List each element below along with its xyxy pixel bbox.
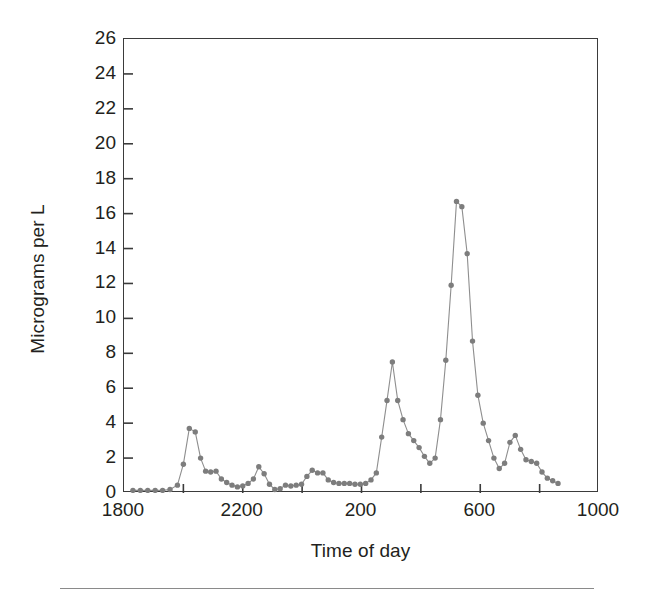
data-point-marker (443, 358, 448, 363)
y-tick-label: 12 (70, 272, 116, 291)
data-point-marker (486, 438, 491, 443)
data-point-marker (203, 468, 208, 473)
data-point-marker (293, 482, 298, 487)
data-point-marker (331, 480, 336, 485)
data-point-marker (304, 474, 309, 479)
chart-figure: Micrograms per L 02468101214161820222426… (0, 0, 654, 603)
data-point-marker (411, 438, 416, 443)
x-tick-label: 1000 (553, 500, 643, 519)
data-point-marker (464, 251, 469, 256)
x-axis-title: Time of day (123, 540, 598, 562)
data-point-marker (438, 417, 443, 422)
y-tick-label: 16 (70, 203, 116, 222)
data-point-marker (459, 204, 464, 209)
data-point-marker (507, 440, 512, 445)
data-point-marker (518, 447, 523, 452)
y-tick-label: 20 (70, 133, 116, 152)
data-point-marker (272, 487, 277, 492)
data-point-marker (229, 482, 234, 487)
data-point-marker (208, 469, 213, 474)
data-point-marker (245, 481, 250, 486)
y-tick-label: 26 (70, 28, 116, 47)
data-point-marker (416, 445, 421, 450)
data-point-marker (390, 359, 395, 364)
x-tick-label: 2200 (197, 500, 287, 519)
data-point-marker (395, 398, 400, 403)
bottom-divider (60, 588, 594, 589)
y-tick-label: 6 (70, 377, 116, 396)
y-tick-label: 4 (70, 412, 116, 431)
data-point-marker (198, 455, 203, 460)
data-point-marker (555, 481, 560, 486)
data-point-marker (422, 454, 427, 459)
data-point-marker (454, 199, 459, 204)
data-point-marker (219, 476, 224, 481)
data-point-marker (145, 488, 150, 493)
data-point-marker (310, 468, 315, 473)
data-point-marker (320, 470, 325, 475)
data-point-marker (193, 429, 198, 434)
y-tick-label: 10 (70, 307, 116, 326)
data-point-marker (384, 398, 389, 403)
data-point-marker (213, 468, 218, 473)
data-point-marker (130, 488, 135, 493)
data-point-marker (152, 488, 157, 493)
data-point-marker (175, 482, 180, 487)
data-point-marker (368, 477, 373, 482)
data-point-marker (167, 487, 172, 492)
data-point-marker (475, 393, 480, 398)
data-point-marker (326, 477, 331, 482)
data-point-marker (523, 457, 528, 462)
x-axis-tick-labels: 180022002006001000 (0, 500, 654, 526)
data-point-marker (315, 470, 320, 475)
data-point-marker (427, 461, 432, 466)
y-tick-label: 14 (70, 238, 116, 257)
data-point-marker (261, 471, 266, 476)
data-point-marker (235, 484, 240, 489)
data-point-marker (491, 455, 496, 460)
y-axis-title: Micrograms per L (27, 149, 49, 409)
data-point-marker (336, 481, 341, 486)
data-point-marker (288, 483, 293, 488)
data-point-marker (283, 482, 288, 487)
y-tick-label: 18 (70, 168, 116, 187)
data-point-marker (352, 482, 357, 487)
data-point-marker (256, 464, 261, 469)
data-point-marker (545, 475, 550, 480)
data-point-marker (539, 469, 544, 474)
y-tick-label: 8 (70, 342, 116, 361)
y-tick-label: 2 (70, 447, 116, 466)
data-point-marker (448, 283, 453, 288)
data-point-marker (379, 434, 384, 439)
data-point-marker (502, 461, 507, 466)
x-tick-label: 600 (434, 500, 524, 519)
data-point-marker (529, 459, 534, 464)
data-point-marker (550, 478, 555, 483)
data-point-marker (534, 461, 539, 466)
data-point-marker (160, 488, 165, 493)
data-point-marker (497, 466, 502, 471)
data-point-marker (358, 482, 363, 487)
data-point-marker (267, 482, 272, 487)
data-point-marker (470, 338, 475, 343)
plot-area (123, 38, 598, 492)
y-tick-label: 24 (70, 63, 116, 82)
data-point-marker (374, 470, 379, 475)
data-point-marker (481, 420, 486, 425)
data-point-marker (138, 488, 143, 493)
data-series-line (133, 201, 558, 490)
data-point-marker (513, 433, 518, 438)
series-canvas (124, 39, 599, 493)
x-tick-label: 200 (316, 500, 406, 519)
data-point-marker (251, 476, 256, 481)
data-point-marker (400, 417, 405, 422)
data-point-marker (187, 426, 192, 431)
data-point-marker (347, 481, 352, 486)
y-tick-label: 22 (70, 98, 116, 117)
data-point-marker (432, 455, 437, 460)
data-point-marker (224, 480, 229, 485)
data-point-marker (363, 481, 368, 486)
data-point-marker (342, 481, 347, 486)
data-point-marker (240, 483, 245, 488)
x-tick-label: 1800 (78, 500, 168, 519)
